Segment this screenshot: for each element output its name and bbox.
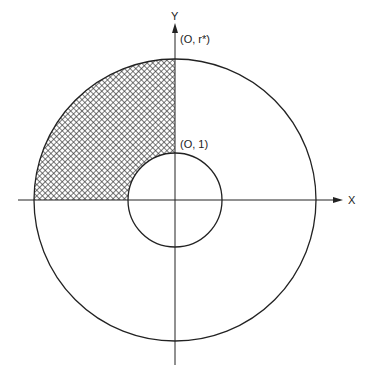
y-axis-label: Y — [171, 10, 179, 22]
x-axis-arrow-icon — [333, 197, 343, 203]
shaded-region — [34, 59, 175, 200]
diagram-canvas: X Y (O, r*) (O, 1) — [0, 0, 371, 382]
inner-point-label: (O, 1) — [180, 138, 208, 150]
outer-point-label: (O, r*) — [180, 33, 210, 45]
x-axis-label: X — [348, 194, 356, 206]
y-axis-arrow-icon — [172, 23, 178, 33]
